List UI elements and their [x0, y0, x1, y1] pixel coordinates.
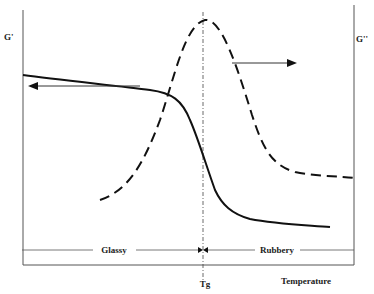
temperature-axis-label: Temperature	[281, 276, 331, 286]
arrow-right-icon	[287, 59, 297, 67]
arrow-left-icon	[28, 82, 38, 90]
glassy-label: Glassy	[101, 245, 127, 255]
tg-label: Tg	[200, 279, 211, 289]
g-double-prime-label: G''	[356, 34, 368, 44]
rubbery-label: Rubbery	[260, 245, 295, 255]
g-prime-curve	[23, 75, 330, 227]
g-prime-label: G'	[4, 32, 14, 42]
viscoelastic-diagram: G' G'' Glassy Rubbery Tg Temperature	[0, 0, 374, 294]
g-double-prime-curve	[100, 20, 354, 200]
tg-arrowhead-left	[198, 247, 203, 253]
tg-arrowhead-right	[203, 247, 208, 253]
